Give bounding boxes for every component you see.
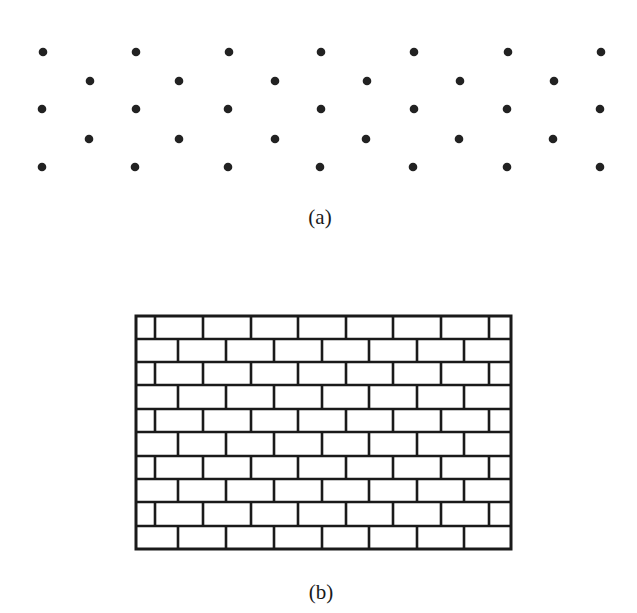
panel-a-caption: (a) [308,205,331,229]
lattice-point [86,77,95,86]
lattice-point [503,105,512,114]
lattice-point [550,77,559,86]
lattice-point [85,135,94,144]
lattice-point [317,105,326,114]
lattice-point [271,77,280,86]
lattice-point [38,105,47,114]
lattice-point [455,135,464,144]
lattice-point [224,105,233,114]
lattice-point [132,105,141,114]
lattice-point [131,163,140,172]
panel-a-point-lattice [38,48,606,172]
lattice-point [132,48,141,57]
lattice-point [225,48,234,57]
lattice-point [317,48,326,57]
lattice-point [596,163,605,172]
panel-b-brick-wall [136,316,511,549]
lattice-point [224,163,233,172]
lattice-point [410,48,419,57]
lattice-point [503,163,512,172]
lattice-point [362,135,371,144]
lattice-point [549,135,558,144]
lattice-point [39,48,48,57]
panel-b-caption: (b) [309,580,334,604]
figure-canvas: (a) (b) [0,0,637,613]
lattice-point [316,163,325,172]
lattice-point [175,77,184,86]
lattice-point [363,77,372,86]
lattice-point [504,48,513,57]
lattice-point [175,135,184,144]
lattice-point [456,77,465,86]
lattice-point [596,105,605,114]
lattice-point [409,163,418,172]
lattice-point [38,163,47,172]
lattice-point [597,48,606,57]
lattice-point [271,135,280,144]
lattice-point [410,105,419,114]
